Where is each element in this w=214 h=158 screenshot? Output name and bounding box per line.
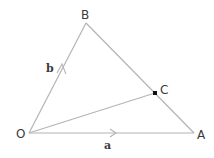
label-c: C [160,83,168,97]
label-o: O [16,127,25,141]
segment-oc [29,93,155,133]
vector-diagram: B O A C b a [0,0,214,158]
label-vector-b: b [46,62,54,75]
label-a: A [197,128,206,142]
label-vector-a: a [104,139,111,152]
segment-ba [86,23,194,133]
point-c-marker [153,91,157,95]
segment-ob [29,23,86,133]
label-b: B [81,8,89,22]
